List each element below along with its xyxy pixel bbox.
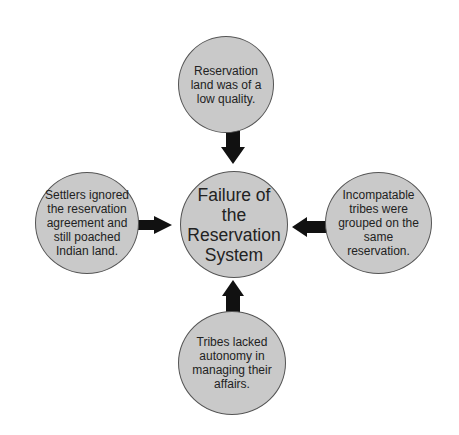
center-node: Failure of the Reservation System [180, 171, 288, 278]
arrow-down-icon [221, 131, 245, 164]
center-label: Failure of the Reservation System [181, 185, 287, 265]
arrow-left-icon [292, 217, 328, 237]
cause-label-top: Reservation land was of a low quality. [179, 64, 273, 106]
cause-label-right: Incompatable tribes were grouped on the … [326, 188, 431, 258]
cause-node-right: Incompatable tribes were grouped on the … [325, 172, 432, 274]
cause-node-left: Settlers ignored the reservation agreeme… [35, 172, 139, 274]
arrow-right-icon [137, 216, 172, 234]
cause-label-bottom: Tribes lacked autonomy in managing their… [179, 335, 285, 391]
cause-node-top: Reservation land was of a low quality. [178, 36, 274, 133]
cause-label-left: Settlers ignored the reservation agreeme… [36, 188, 138, 258]
cause-node-bottom: Tribes lacked autonomy in managing their… [178, 311, 286, 415]
arrow-up-icon [222, 280, 244, 314]
